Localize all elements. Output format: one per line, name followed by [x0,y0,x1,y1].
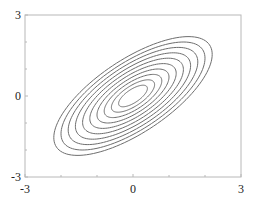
contour-chart: 3 0 -3 -3 0 3 [0,0,253,205]
contour-line [111,80,154,112]
plot-frame [25,15,241,177]
x-tick-label-right: 3 [238,182,244,196]
contour-line [61,42,205,150]
contour-line [83,58,184,134]
contour-lines [54,37,212,156]
x-tick-label-middle: 0 [130,182,136,196]
x-tick-label-left: -3 [20,182,30,196]
y-tick-label-top: 3 [15,8,21,22]
contour-line [119,85,148,107]
contour-line [68,47,198,144]
contour-line [54,37,212,156]
contour-line [75,53,190,139]
axis-ticks [25,15,241,177]
contour-line [90,64,176,129]
y-tick-label-middle: 0 [15,89,21,103]
